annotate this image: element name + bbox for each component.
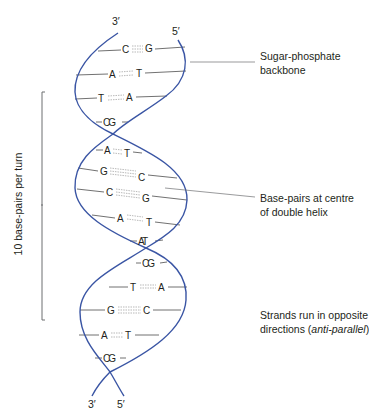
sugar-phosphate-backbone — [75, 33, 187, 396]
annotation-line: of double helix — [260, 205, 354, 219]
base: C — [122, 44, 129, 55]
base: G — [142, 193, 150, 204]
top-right-end-label: 5′ — [172, 25, 180, 37]
annotation-line: Sugar-phosphate — [260, 49, 341, 63]
base: CG — [142, 258, 155, 269]
backbone-annotation: Sugar-phosphate backbone — [260, 49, 341, 77]
annotation-line: Strands run in opposite — [260, 308, 369, 322]
base: G — [100, 166, 108, 177]
bracket-label: 10 base-pairs per turn — [12, 134, 24, 274]
basepairs-annotation: Base-pairs at centre of double helix — [260, 191, 354, 219]
bottom-right-end-label: 5′ — [117, 398, 125, 410]
base: CG — [103, 353, 116, 364]
base: C — [106, 187, 113, 198]
turn-bracket — [41, 92, 45, 320]
base: A — [117, 213, 124, 224]
base: CG — [103, 117, 116, 128]
base: A — [104, 145, 111, 156]
base: A — [109, 69, 116, 80]
base: C — [143, 305, 150, 316]
base: T — [130, 282, 136, 293]
base: T — [98, 93, 104, 104]
base: A — [158, 282, 165, 293]
annotation-line: directions (anti-parallel) — [260, 322, 369, 336]
base: G — [107, 305, 115, 316]
top-left-end-label: 3′ — [112, 15, 120, 27]
base: C — [138, 172, 145, 183]
base-letters: C G A T T A CG A T G C C G A T AT CG T A… — [98, 43, 165, 364]
base: A — [126, 92, 133, 103]
strand-one — [75, 33, 187, 396]
base: T — [124, 148, 130, 159]
annotation-line: Base-pairs at centre — [260, 191, 354, 205]
base: T — [125, 330, 131, 341]
base: A — [101, 330, 108, 341]
annotation-italic-text: anti-parallel — [311, 323, 365, 335]
hydrogen-bonds — [108, 46, 156, 337]
base: G — [145, 43, 153, 54]
antiparallel-annotation: Strands run in opposite directions (anti… — [260, 308, 369, 336]
annotation-text: ) — [366, 323, 369, 335]
annotation-text: directions ( — [260, 323, 311, 335]
base: T — [136, 68, 142, 79]
base-highlighted: AT — [138, 236, 148, 247]
annotation-line: backbone — [260, 63, 341, 77]
base: T — [146, 217, 152, 228]
bottom-left-end-label: 3′ — [88, 398, 96, 410]
